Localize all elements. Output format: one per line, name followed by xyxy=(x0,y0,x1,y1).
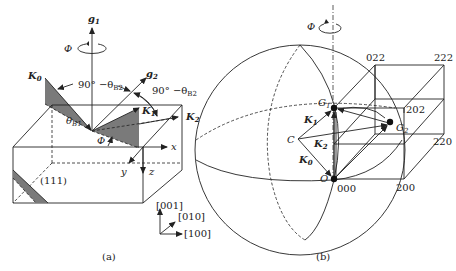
node-000: 000 xyxy=(337,183,356,194)
panel-a-crystal-geometry: (111) g1 Φ K0 g2 K1 K2 90° −θB2 90° −θB2… xyxy=(13,13,211,262)
g1-label: g1 xyxy=(88,13,100,26)
crystal-direction-triad: [001] [010] [100] xyxy=(156,200,211,239)
g2-vector-b xyxy=(334,126,387,179)
phi-rotation-icon-b xyxy=(319,24,341,33)
node-220: 220 xyxy=(433,136,452,147)
y-label: y xyxy=(120,166,127,177)
k2-label-b: K2 xyxy=(313,138,328,151)
x-label: x xyxy=(171,141,177,152)
g2-point xyxy=(387,119,393,125)
panel-b-ewald-sphere: Φ xyxy=(195,5,453,262)
caption-b: (b) xyxy=(316,251,330,262)
origin-point xyxy=(331,176,337,182)
k2-label: K2 xyxy=(185,111,200,124)
g2-label: g2 xyxy=(146,68,158,81)
phi-label: Φ xyxy=(64,43,72,54)
k0-label: K0 xyxy=(27,70,42,83)
plane-111-label: (111) xyxy=(40,175,67,186)
phi-small-label: Φ xyxy=(97,135,105,146)
g1-point xyxy=(331,105,337,111)
angle-left-label: 90° −θB2 xyxy=(78,79,123,92)
node-222: 222 xyxy=(434,52,453,63)
dir-001-label: [001] xyxy=(156,200,183,211)
g2-label-b: G2 xyxy=(396,122,409,135)
angle-right-label: 90° −θB2 xyxy=(152,85,197,98)
k1-label: K1 xyxy=(141,105,156,118)
node-022: 022 xyxy=(366,52,385,63)
g1-label-b: G1 xyxy=(318,97,330,110)
k2-vector xyxy=(139,117,178,124)
crystal-box xyxy=(13,105,182,203)
phi-label-b: Φ xyxy=(307,21,315,32)
o-label: O xyxy=(320,173,328,184)
dir-100-label: [100] xyxy=(184,228,211,239)
c-label: C xyxy=(287,134,295,145)
diffraction-geometry-figure: (111) g1 Φ K0 g2 K1 K2 90° −θB2 90° −θB2… xyxy=(0,0,456,271)
equator-back xyxy=(196,103,395,140)
node-200: 200 xyxy=(396,182,415,193)
y-axis xyxy=(129,147,143,163)
k0-label-b: K0 xyxy=(298,154,313,167)
ewald-sphere xyxy=(195,45,405,255)
dir-010-label: [010] xyxy=(178,211,205,222)
k1-label-b: K1 xyxy=(303,114,318,127)
z-label: z xyxy=(148,166,155,177)
caption-a: (a) xyxy=(102,251,116,262)
node-202: 202 xyxy=(406,104,425,115)
